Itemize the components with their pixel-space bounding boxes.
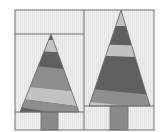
quilt-blocks-svg — [0, 0, 164, 132]
right-trunk — [110, 106, 128, 130]
left-trunk — [41, 112, 58, 130]
quilt-diagram — [0, 0, 164, 132]
